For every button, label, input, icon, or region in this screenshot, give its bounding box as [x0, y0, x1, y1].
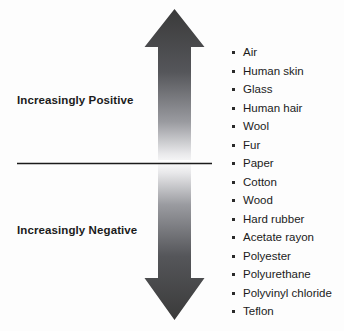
material-label: Air	[243, 46, 257, 58]
list-item: Teflon	[232, 302, 332, 321]
list-item: Acetate rayon	[232, 228, 332, 247]
bullet-square-icon	[232, 107, 235, 110]
material-label: Polyurethane	[243, 268, 311, 280]
bullet-square-icon	[232, 162, 235, 165]
bullet-square-icon	[232, 273, 235, 276]
material-label: Cotton	[243, 176, 277, 188]
bullet-square-icon	[232, 125, 235, 128]
bullet-square-icon	[232, 88, 235, 91]
bullet-square-icon	[232, 236, 235, 239]
list-item: Paper	[232, 154, 332, 173]
arrow-up-half	[145, 9, 205, 166]
bullet-square-icon	[232, 255, 235, 258]
bullet-square-icon	[232, 144, 235, 147]
material-label: Wood	[243, 194, 273, 206]
list-item: Wool	[232, 117, 332, 136]
label-increasingly-positive: Increasingly Positive	[17, 94, 134, 107]
list-item: Fur	[232, 136, 332, 155]
bullet-square-icon	[232, 218, 235, 221]
list-item: Air	[232, 43, 332, 62]
material-list: AirHuman skinGlassHuman hairWoolFurPaper…	[232, 43, 332, 321]
material-label: Hard rubber	[243, 213, 304, 225]
material-label: Human skin	[243, 65, 304, 77]
list-item: Human hair	[232, 99, 332, 118]
bullet-square-icon	[232, 51, 235, 54]
material-label: Acetate rayon	[243, 231, 314, 243]
material-label: Teflon	[243, 305, 274, 317]
list-item: Wood	[232, 191, 332, 210]
material-label: Polyvinyl chloride	[243, 287, 332, 299]
list-item: Polyester	[232, 247, 332, 266]
bullet-square-icon	[232, 199, 235, 202]
bullet-square-icon	[232, 70, 235, 73]
arrow-down-half	[145, 160, 205, 320]
material-label: Human hair	[243, 102, 302, 114]
material-label: Paper	[243, 157, 274, 169]
list-item: Polyurethane	[232, 265, 332, 284]
material-label: Fur	[243, 139, 260, 151]
list-item: Polyvinyl chloride	[232, 284, 332, 303]
bullet-square-icon	[232, 181, 235, 184]
material-label: Glass	[243, 83, 272, 95]
list-item: Cotton	[232, 173, 332, 192]
material-label: Wool	[243, 120, 269, 132]
list-item: Human skin	[232, 62, 332, 81]
label-increasingly-negative: Increasingly Negative	[17, 224, 137, 237]
list-item: Glass	[232, 80, 332, 99]
list-item: Hard rubber	[232, 210, 332, 229]
bullet-square-icon	[232, 292, 235, 295]
material-label: Polyester	[243, 250, 291, 262]
triboelectric-series-diagram: Increasingly Positive Increasingly Negat…	[0, 0, 344, 331]
bullet-square-icon	[232, 310, 235, 313]
